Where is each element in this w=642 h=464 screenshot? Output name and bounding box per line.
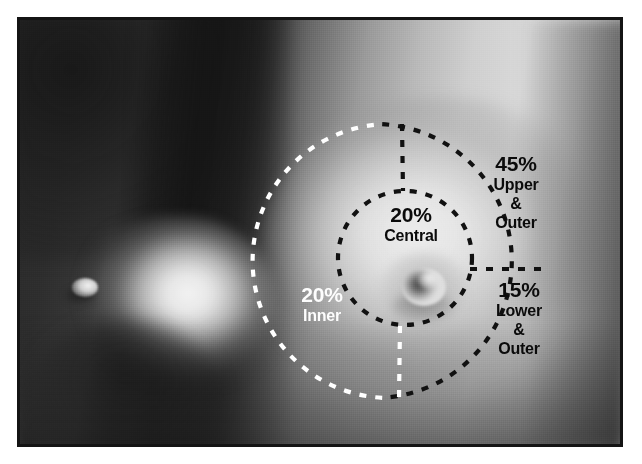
label-lower-outer-line3: Outer	[467, 341, 571, 358]
label-upper-outer: 45% Upper & Outer	[462, 153, 570, 232]
label-central-line1: Central	[361, 228, 461, 245]
label-inner-percent: 20%	[276, 284, 368, 306]
label-inner: 20% Inner	[276, 284, 368, 325]
label-central-percent: 20%	[361, 204, 461, 226]
label-lower-outer-line2: &	[467, 322, 571, 339]
label-upper-outer-line3: Outer	[462, 215, 570, 232]
label-upper-outer-line2: &	[462, 196, 570, 213]
label-lower-outer: 15% Lower & Outer	[467, 279, 571, 358]
label-inner-line1: Inner	[276, 308, 368, 325]
figure-root: 45% Upper & Outer 15% Lower & Outer 20% …	[0, 0, 642, 464]
label-upper-outer-line1: Upper	[462, 177, 570, 194]
label-upper-outer-percent: 45%	[462, 153, 570, 175]
label-central: 20% Central	[361, 204, 461, 245]
label-lower-outer-percent: 15%	[467, 279, 571, 301]
photo-frame: 45% Upper & Outer 15% Lower & Outer 20% …	[17, 17, 623, 447]
label-lower-outer-line1: Lower	[467, 303, 571, 320]
